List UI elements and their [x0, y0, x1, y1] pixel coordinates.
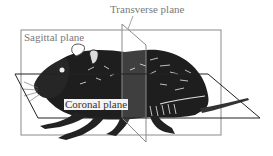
anatomical-planes-diagram: Transverse plane Sagittal plane Coronal … [0, 0, 273, 156]
rat-eye [60, 68, 65, 73]
transverse-leader-line [128, 16, 133, 29]
diagram-canvas [0, 0, 273, 156]
transverse-plane-label: Transverse plane [110, 4, 184, 15]
rat-front-leg [40, 112, 88, 129]
sagittal-plane-label: Sagittal plane [24, 32, 84, 43]
coronal-plane-label: Coronal plane [64, 99, 128, 110]
rat-hind-leg [150, 116, 175, 134]
